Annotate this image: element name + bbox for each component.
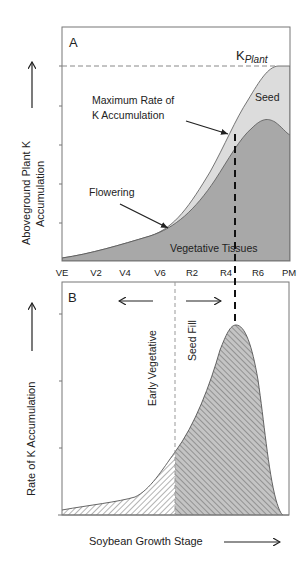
svg-text:R4: R4	[220, 267, 232, 278]
max-rate-label-line2: K Accumulation	[92, 109, 165, 121]
svg-text:Accumulation: Accumulation	[34, 161, 46, 227]
panel-a: A KPlant Seed Maximum Rate of K Accumula…	[20, 27, 290, 261]
panel-b-label: B	[68, 290, 77, 305]
svg-text:PM: PM	[282, 267, 296, 278]
panel-a-ylabel: Aboveground Plant K Accumulation	[20, 140, 46, 245]
svg-text:VE: VE	[56, 267, 69, 278]
seed-label: Seed	[255, 91, 280, 103]
svg-text:V2: V2	[90, 267, 102, 278]
panel-b-ylabel: Rate of K Accumulation	[25, 382, 37, 496]
svg-text:R6: R6	[252, 267, 264, 278]
early-vegetative-label: Early Vegetative	[146, 330, 158, 406]
flowering-arrow	[120, 204, 168, 228]
max-rate-label-line1: Maximum Rate of	[92, 94, 174, 106]
svg-text:R2: R2	[186, 267, 198, 278]
panel-a-label: A	[69, 35, 78, 50]
svg-text:V4: V4	[119, 267, 131, 278]
svg-text:V6: V6	[154, 267, 166, 278]
panel-b-xlabel: Soybean Growth Stage	[89, 535, 203, 547]
svg-text:Aboveground Plant K: Aboveground Plant K	[20, 140, 32, 245]
vegetative-tissues-label: Vegetative Tissues	[170, 242, 258, 254]
k-plant-label: KPlant	[236, 48, 269, 65]
seed-fill-label: Seed Fill	[186, 320, 198, 361]
panel-b: B Early Vegetative Seed Fill Rate of K A…	[25, 282, 289, 547]
flowering-label: Flowering	[89, 186, 135, 198]
x-tick-labels: VE V2 V4 V6 R2 R4 R6 PM	[56, 267, 297, 278]
max-rate-arrow	[186, 121, 228, 134]
soybean-k-figure: A KPlant Seed Maximum Rate of K Accumula…	[0, 0, 308, 571]
